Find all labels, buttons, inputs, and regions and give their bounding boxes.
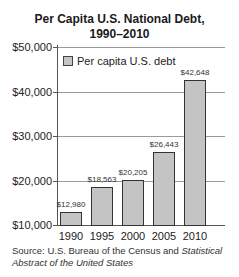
- chart-title-line-2: 1990–2010: [0, 27, 239, 42]
- bar-2000: [122, 180, 144, 226]
- y-tick-label: $50,000: [0, 41, 52, 53]
- source-note: Source: U.S. Bureau of the Census and St…: [12, 245, 237, 269]
- source-prefix: Source: U.S. Bureau of the Census and: [12, 245, 182, 256]
- x-tick-label: 2010: [180, 230, 210, 242]
- value-label: $20,205: [113, 168, 153, 177]
- y-tick-label: $10,000: [0, 219, 52, 231]
- value-label: $42,648: [175, 68, 215, 77]
- value-label: $26,443: [144, 140, 184, 149]
- legend-swatch-icon: [63, 56, 73, 66]
- bar-1995: [91, 187, 113, 226]
- gridline: [57, 47, 225, 48]
- x-tick-label: 2005: [149, 230, 179, 242]
- y-tick-label: $30,000: [0, 130, 52, 142]
- x-tick-label: 1995: [87, 230, 117, 242]
- bar-1990: [60, 212, 82, 226]
- x-tick-label: 2000: [118, 230, 148, 242]
- y-axis: [57, 45, 58, 226]
- bar-2010: [184, 80, 206, 226]
- x-tick-label: 1990: [56, 230, 86, 242]
- legend-label: Per capita U.S. debt: [77, 55, 175, 67]
- y-tick-label: $20,000: [0, 175, 52, 187]
- chart-title-line-1: Per Capita U.S. National Debt,: [0, 12, 239, 27]
- value-label: $12,980: [51, 200, 91, 209]
- legend: Per capita U.S. debt: [63, 55, 175, 67]
- chart-title: Per Capita U.S. National Debt, 1990–2010: [0, 12, 239, 42]
- bar-2005: [153, 152, 175, 226]
- y-tick-label: $40,000: [0, 86, 52, 98]
